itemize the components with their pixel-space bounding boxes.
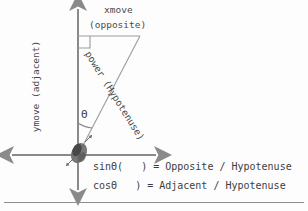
bottom-divider (4, 202, 304, 203)
angle-arc-icon (78, 123, 92, 128)
diagram-canvas: xmove (opposite) ymove (adjacent) power … (0, 0, 308, 211)
x-axis-sublabel: (opposite) (89, 19, 146, 30)
y-axis-label: ymove (adjacent) (30, 28, 41, 146)
rock-icon (68, 140, 90, 165)
cosine-equation: cosΘ ) = Adjacent / Hypotenuse (93, 180, 286, 191)
x-axis-label: xmove (104, 4, 133, 15)
sine-equation: sinΘ( ) = Opposite / Hypotenuse (93, 161, 292, 172)
angle-symbol-label: Θ (81, 108, 88, 121)
